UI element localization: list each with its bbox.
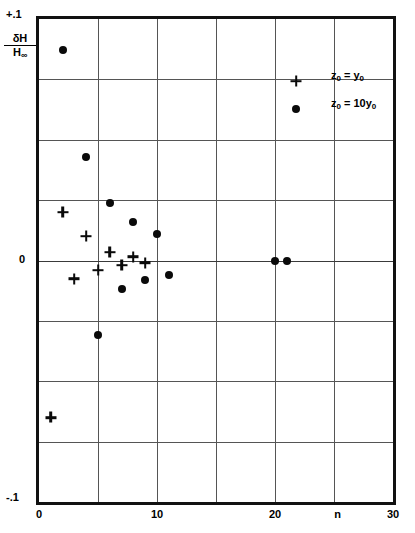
data-point [59,46,67,54]
data-point [106,199,114,207]
y-axis-min-label: -.1 [6,491,19,503]
legend-entry: z0 = 10y0 [289,95,415,123]
gridline-horizontal [39,200,393,201]
plot-frame: z0 = y0z0 = 10y0 [36,16,396,505]
data-point [81,231,92,242]
data-point [69,273,80,284]
y-axis-title: δH H∞ [4,33,36,60]
gridline-horizontal [39,381,393,382]
data-point [94,331,102,339]
data-point [118,285,126,293]
figure-caption [10,524,410,533]
x-axis-title: n [334,508,341,520]
gridline-horizontal [39,140,393,141]
legend-plus-icon [289,74,303,88]
y-axis-title-numerator: δH [4,33,36,46]
data-point [165,271,173,279]
x-axis-tick-label: 30 [387,508,399,520]
data-point [57,207,68,218]
y-axis-title-denominator-subscript: ∞ [21,50,27,60]
data-point [129,218,137,226]
legend-entry: z0 = y0 [289,67,415,95]
data-point [82,153,90,161]
y-axis-title-denominator-symbol: H [13,46,21,58]
data-point [140,257,151,268]
x-axis-tick-label: 20 [269,508,281,520]
y-axis-max-label: +.1 [6,8,22,20]
gridline-horizontal [39,442,393,443]
data-point [116,260,127,271]
gridline-zero [39,261,393,262]
legend-label: z0 = y0 [331,69,364,83]
legend: z0 = y0z0 = 10y0 [289,67,415,123]
data-point [128,251,139,262]
data-point [271,257,279,265]
data-point [283,257,291,265]
gridline-horizontal [39,321,393,322]
data-point [153,230,161,238]
data-point [93,265,104,276]
y-axis-zero-label: 0 [19,253,25,265]
data-point [104,247,115,258]
legend-circle-icon [289,102,303,116]
x-axis-tick-label: 10 [151,508,163,520]
figure: +.1 0 -.1 δH H∞ z0 = y0z0 = 10y0 0102030… [0,0,415,533]
x-axis-tick-label: 0 [36,508,42,520]
data-point [45,412,56,423]
data-point [141,276,149,284]
y-axis-title-denominator: H∞ [4,46,36,60]
legend-label: z0 = 10y0 [331,97,376,111]
